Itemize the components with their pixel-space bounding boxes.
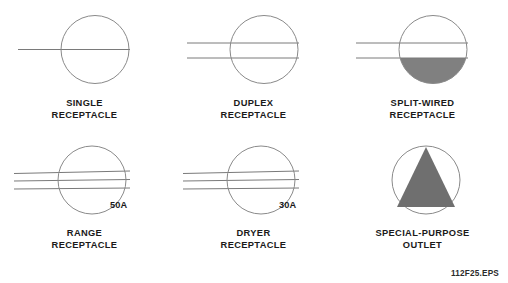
caption-line-2: RECEPTACLE [169,240,338,252]
split-wired-receptacle-caption: SPLIT-WIRED RECEPTACLE [338,98,507,121]
caption-line-1: DUPLEX [169,98,338,110]
symbol-special-purpose-outlet: SPECIAL-PURPOSE OUTLET [338,138,507,270]
dryer-rating-label: 30A [279,200,296,210]
symbol-range-receptacle: 50A RANGE RECEPTACLE [0,138,169,270]
caption-line-2: RECEPTACLE [0,240,169,252]
caption-line-1: SPLIT-WIRED [338,98,507,110]
caption-line-1: SPECIAL-PURPOSE [338,228,507,240]
caption-line-2: RECEPTACLE [169,110,338,122]
figure-code-label: 112F25.EPS [451,269,499,278]
range-rating-label: 50A [110,200,127,210]
range-receptacle-caption: RANGE RECEPTACLE [0,228,169,251]
symbol-single-receptacle: SINGLE RECEPTACLE [0,2,169,134]
dryer-receptacle-icon [169,138,338,233]
symbol-split-wired-receptacle: SPLIT-WIRED RECEPTACLE [338,2,507,134]
caption-line-1: RANGE [0,228,169,240]
caption-line-2: OUTLET [338,240,507,252]
split-wired-receptacle-icon [338,2,507,97]
caption-line-1: DRYER [169,228,338,240]
electrical-symbols-diagram: SINGLE RECEPTACLE DUPLEX RECEPTACLE [0,0,508,283]
symbol-duplex-receptacle: DUPLEX RECEPTACLE [169,2,338,134]
caption-line-2: RECEPTACLE [338,110,507,122]
special-purpose-outlet-caption: SPECIAL-PURPOSE OUTLET [338,228,507,251]
caption-line-1: SINGLE [0,98,169,110]
dryer-receptacle-caption: DRYER RECEPTACLE [169,228,338,251]
caption-line-2: RECEPTACLE [0,110,169,122]
special-purpose-outlet-icon [338,138,507,233]
single-receptacle-icon [0,2,169,97]
single-receptacle-caption: SINGLE RECEPTACLE [0,98,169,121]
range-receptacle-icon [0,138,169,233]
symbol-dryer-receptacle: 30A DRYER RECEPTACLE [169,138,338,270]
duplex-receptacle-caption: DUPLEX RECEPTACLE [169,98,338,121]
duplex-receptacle-icon [169,2,338,97]
